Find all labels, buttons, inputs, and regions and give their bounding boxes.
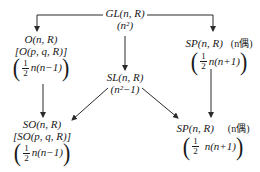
node-o-label: O(n, R) (6, 34, 76, 46)
node-o: O(n, R) [O(p, q, R)] ( 1 2 n(n−1) ) (6, 34, 76, 79)
node-so-dimension: ( 1 2 n(n−1) ) (14, 142, 70, 164)
node-so: SO(n, R) [SO(p, q, R)] ( 1 2 n(n−1) ) (6, 119, 78, 164)
fraction-half: 1 2 (22, 59, 29, 78)
node-gl-dim: (n²) (103, 20, 147, 32)
edge-gl-to-o (37, 15, 103, 31)
node-sl-label: SL(n, R) (101, 72, 149, 84)
node-sp-top-dimension: ( 1 2 n(n+1) ) (191, 51, 247, 73)
node-sl-dim: (n²−1) (101, 84, 149, 96)
node-so-label: SO(n, R) (6, 119, 78, 131)
fraction-half: 1 2 (23, 144, 30, 163)
node-gl-label: GL(n, R) (103, 8, 147, 20)
node-sp-bottom: SP(n, R) (n偶) ( 1 2 n(n+1) ) (166, 119, 260, 158)
fraction-half: 1 2 (200, 52, 207, 71)
edge-gl-to-sp-top (147, 15, 213, 31)
node-sp-bottom-dimension: ( 1 2 n(n+1) ) (183, 136, 243, 158)
node-o-dimension: ( 1 2 n(n−1) ) (13, 57, 69, 79)
node-sl: SL(n, R) (n²−1) (101, 72, 149, 95)
fraction-half: 1 2 (192, 137, 199, 156)
node-sp-top: SP(n, R) (n偶) ( 1 2 n(n+1) ) (178, 34, 260, 73)
node-gl: GL(n, R) (n²) (103, 8, 147, 31)
lie-group-diagram: GL(n, R) (n²) O(n, R) [O(p, q, R)] ( 1 2… (0, 0, 260, 172)
